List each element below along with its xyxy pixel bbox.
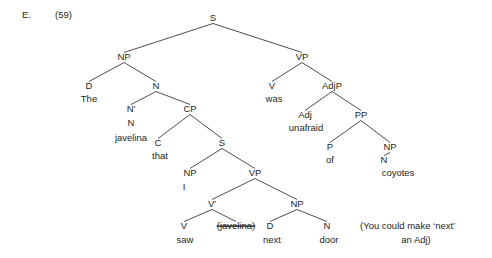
side-note-line-2: an Adj) bbox=[401, 234, 431, 245]
tree-node-N_head: N bbox=[153, 80, 160, 91]
tree-leaf-word_that: that bbox=[152, 150, 168, 161]
tree-node-D_the: D bbox=[86, 80, 93, 91]
tree-leaf-word_the: The bbox=[81, 93, 97, 104]
tree-leaf-word_i: I bbox=[183, 181, 186, 192]
tree-leaf-word_trace: (javelina) bbox=[217, 220, 256, 231]
tree-node-N_inner: N bbox=[128, 117, 135, 128]
tree-node-CP: CP bbox=[183, 103, 196, 114]
example-number: (59) bbox=[55, 9, 72, 20]
syntax-tree-figure: E. (59) SNPVPDNVAdjPN′NCPAdjPPCSPNPNNPVP… bbox=[0, 0, 492, 258]
tree-leaf-word_javelina: javelina bbox=[114, 132, 148, 143]
tree-node-NP_I: NP bbox=[183, 167, 196, 178]
tree-node-Adj: Adj bbox=[298, 109, 312, 120]
tree-node-D_next: D bbox=[267, 220, 274, 231]
tree-node-N_coy: N bbox=[381, 154, 388, 165]
tree-node-NP_next: NP bbox=[290, 198, 303, 209]
tree-node-VP_main: VP bbox=[296, 51, 309, 62]
tree-node-Nbar: N′ bbox=[127, 103, 136, 114]
tree-node-S_root: S bbox=[210, 12, 216, 23]
tree-node-NP_coy: NP bbox=[383, 141, 396, 152]
tree-node-Vbar: V′ bbox=[208, 198, 216, 209]
tree-leaf-word_of: of bbox=[326, 154, 334, 165]
tree-node-V_saw: V bbox=[181, 220, 188, 231]
tree-node-S_embed: S bbox=[219, 137, 225, 148]
example-letter: E. bbox=[22, 9, 31, 20]
tree-node-V_was: V bbox=[269, 80, 276, 91]
tree-node-C_that: C bbox=[155, 137, 162, 148]
tree-leaf-word_door: door bbox=[319, 234, 338, 245]
tree-node-NP_subj: NP bbox=[117, 51, 130, 62]
tree-leaf-word_next: next bbox=[263, 234, 281, 245]
side-note-line-1: (You could make ‘next’ bbox=[360, 220, 455, 231]
tree-node-AdjP: AdjP bbox=[322, 80, 342, 91]
tree-leaf-word_unafraid: unafraid bbox=[289, 122, 323, 133]
tree-leaf-word_saw: saw bbox=[177, 234, 194, 245]
tree-leaf-word_coyotes: coyotes bbox=[382, 167, 415, 178]
tree-node-N_door: N bbox=[324, 220, 331, 231]
tree-node-P_of: P bbox=[327, 141, 333, 152]
tree-node-PP: PP bbox=[355, 109, 368, 120]
tree-leaf-word_was: was bbox=[265, 93, 283, 104]
tree-node-VP_embed: VP bbox=[249, 167, 262, 178]
